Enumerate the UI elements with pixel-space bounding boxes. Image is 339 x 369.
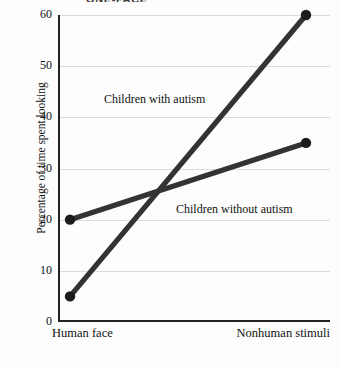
y-axis-title: Percentage of time spent looking — [35, 43, 47, 273]
series-label-children-without-autism: Children without autism — [176, 202, 293, 217]
x-axis-tick-label-human-face: Human face — [52, 326, 113, 341]
data-point-0-0 — [65, 291, 75, 301]
data-point-1-1 — [301, 138, 311, 148]
y-tick-label-60: 60 — [40, 7, 52, 22]
series-plot — [58, 15, 330, 322]
line-chart-figure: ONE-FACE Percentage of time spent lookin… — [0, 0, 339, 369]
plot-area: 0102030405060 Human face Nonhuman stimul… — [58, 15, 330, 322]
y-tick-label-50: 50 — [40, 58, 52, 73]
y-tick-label-40: 40 — [40, 110, 52, 125]
y-tick-label-30: 30 — [40, 161, 52, 176]
data-point-1-0 — [65, 214, 75, 224]
chart-title-cutoff: ONE-FACE — [86, 0, 206, 2]
data-point-0-1 — [301, 10, 311, 20]
y-tick-label-20: 20 — [40, 212, 52, 227]
x-axis-tick-label-nonhuman-stimuli: Nonhuman stimuli — [237, 326, 330, 341]
series-label-children-with-autism: Children with autism — [104, 92, 205, 107]
y-tick-label-10: 10 — [40, 263, 52, 278]
